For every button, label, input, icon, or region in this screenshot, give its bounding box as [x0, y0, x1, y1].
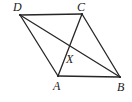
diagonal-AC: [58, 14, 82, 76]
vertex-label-c: C: [77, 1, 85, 13]
parallelogram-diagram: [0, 0, 132, 102]
side-DA: [20, 15, 58, 76]
side-CB: [82, 14, 120, 77]
vertex-label-d: D: [13, 1, 22, 13]
vertex-label-x: X: [66, 53, 73, 65]
geometry-figure: D C X A B: [0, 0, 132, 102]
side-AB: [58, 76, 120, 77]
vertex-label-a: A: [53, 80, 60, 92]
vertex-label-b: B: [117, 81, 124, 93]
vertex-dot-b: [119, 76, 121, 78]
segment-group: [20, 14, 120, 77]
side-DC: [20, 14, 82, 15]
vertex-dot-a: [57, 75, 59, 77]
vertex-dot-d: [19, 14, 21, 16]
